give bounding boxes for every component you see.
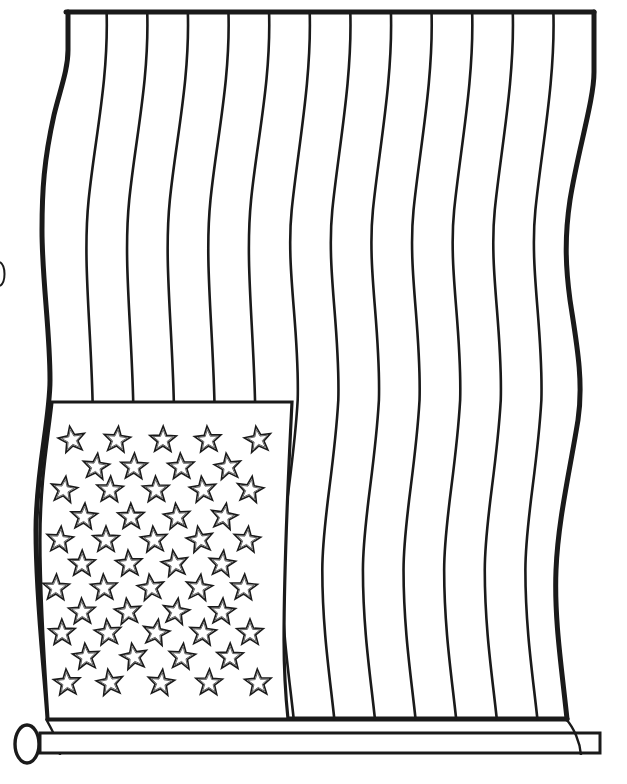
coloring-page: American flag coloring page xyxy=(0,0,627,784)
stripe-divider-line xyxy=(444,12,472,719)
flag-right-edge xyxy=(556,12,594,719)
stripe-divider-line xyxy=(363,12,391,719)
stripe-divider-line xyxy=(282,12,310,719)
stray-mark xyxy=(0,262,5,286)
stripe-divider-line xyxy=(404,12,432,719)
flag-drawing xyxy=(0,0,627,784)
flag-pole xyxy=(15,719,600,763)
stripe-divider-line xyxy=(322,12,350,719)
stripe-divider-line xyxy=(485,12,513,719)
stripe-divider-line xyxy=(525,12,553,719)
stripe-divider-line xyxy=(168,12,188,402)
star-canton xyxy=(40,402,292,719)
stripe-divider-line xyxy=(208,12,228,402)
stripe-divider-line xyxy=(127,12,147,402)
pole-knob xyxy=(15,725,39,763)
pole-bar xyxy=(40,733,600,753)
stripe-divider-line xyxy=(249,12,269,402)
stripe-divider-line xyxy=(86,12,106,402)
